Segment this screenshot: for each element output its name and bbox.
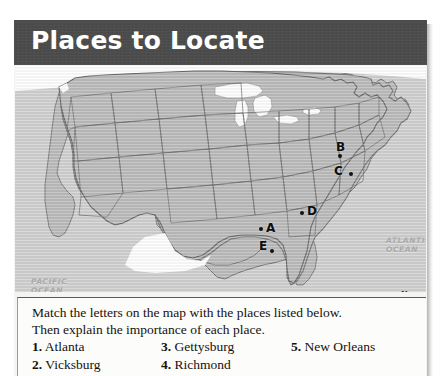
places-row-2: 2. Vicksburg 4. Richmond bbox=[32, 356, 424, 374]
map-point-a-letter: A bbox=[266, 222, 275, 234]
place-item-2-number: 2. bbox=[32, 357, 42, 372]
map-point-d-letter: D bbox=[307, 205, 317, 217]
instructions-box: Match the letters on the map with the pl… bbox=[17, 297, 426, 376]
map-area: PACIFIC OCEAN ATLANTIC OCEAN B C D A E bbox=[15, 65, 426, 292]
place-item-5-name: New Orleans bbox=[305, 339, 376, 354]
instructions-line-1: Match the letters on the map with the pl… bbox=[32, 304, 342, 321]
place-item-4-name: Richmond bbox=[175, 357, 231, 372]
pacific-ocean-label: PACIFIC OCEAN bbox=[31, 277, 67, 292]
map-point-c-dot bbox=[349, 172, 353, 176]
place-item-1-number: 1. bbox=[32, 339, 42, 354]
united-states-map bbox=[15, 65, 426, 292]
map-point-e-dot bbox=[270, 249, 274, 253]
place-item-4-number: 4. bbox=[161, 357, 171, 372]
place-item-3-name: Gettysburg bbox=[175, 339, 235, 354]
place-item-1-name: Atlanta bbox=[45, 339, 85, 354]
place-item-3-number: 3. bbox=[161, 339, 171, 354]
panel-drop-shadow bbox=[427, 24, 433, 376]
page-title: Places to Locate bbox=[31, 26, 265, 55]
place-item-5: 5. New Orleans bbox=[291, 338, 375, 356]
instructions-line-2: Then explain the importance of each plac… bbox=[32, 321, 342, 338]
places-list: 1. Atlanta 3. Gettysburg 5. New Orleans … bbox=[32, 338, 424, 374]
map-point-d-dot bbox=[300, 211, 304, 215]
place-item-3: 3. Gettysburg bbox=[161, 338, 234, 356]
places-row-1: 1. Atlanta 3. Gettysburg 5. New Orleans bbox=[32, 338, 424, 356]
place-item-1: 1. Atlanta bbox=[32, 338, 85, 356]
map-point-c-letter: C bbox=[334, 165, 343, 177]
place-item-2-name: Vicksburg bbox=[45, 357, 100, 372]
place-item-4: 4. Richmond bbox=[161, 356, 231, 374]
atlantic-ocean-label: ATLANTIC OCEAN bbox=[386, 236, 426, 254]
instructions-text: Match the letters on the map with the pl… bbox=[32, 304, 342, 338]
place-item-2: 2. Vicksburg bbox=[32, 356, 100, 374]
worksheet-page: Places to Locate bbox=[0, 0, 441, 376]
map-point-b-letter: B bbox=[336, 141, 345, 153]
title-bar: Places to Locate bbox=[14, 20, 427, 65]
map-point-a-dot bbox=[259, 227, 263, 231]
map-point-b-dot bbox=[338, 154, 342, 158]
place-item-5-number: 5. bbox=[291, 339, 301, 354]
map-point-e-letter: E bbox=[259, 240, 267, 252]
